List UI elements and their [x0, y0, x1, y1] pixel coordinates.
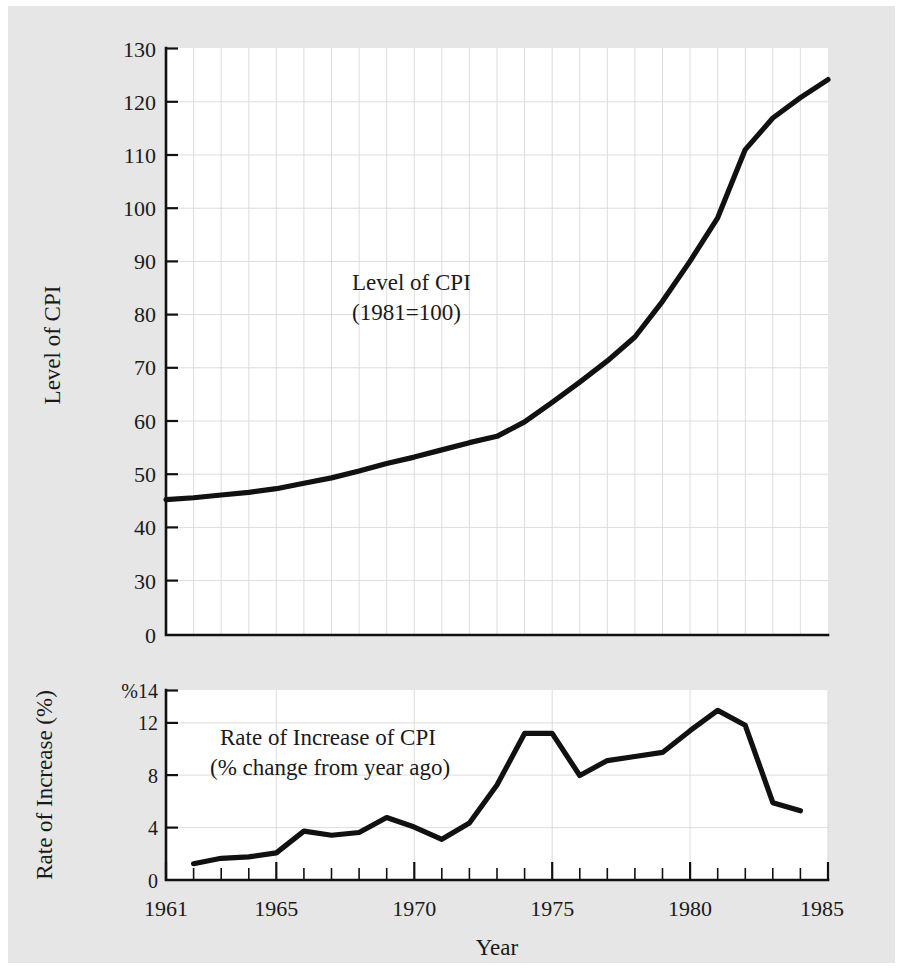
upper-yaxis-title: Level of CPI — [40, 286, 65, 405]
upper-ytick-label-80: 80 — [134, 302, 156, 327]
xtick-label-1965: 1965 — [254, 896, 298, 921]
lower-yaxis-title: Rate of Increase (%) — [32, 690, 57, 880]
xtick-label-1961: 1961 — [144, 896, 188, 921]
lower-annotation-line1: Rate of Increase of CPI — [220, 725, 436, 750]
lower-ytick-label-14: %14 — [121, 680, 158, 702]
xtick-label-1985: 1985 — [800, 896, 844, 921]
upper-ytick-label-100: 100 — [123, 196, 156, 221]
upper-ytick-label-0: 0 — [145, 623, 156, 648]
upper-ytick-label-110: 110 — [124, 143, 156, 168]
xaxis-title: Year — [476, 935, 519, 960]
lower-annotation-line2: (% change from year ago) — [210, 755, 450, 780]
upper-ytick-label-60: 60 — [134, 409, 156, 434]
upper-ytick-label-130: 130 — [123, 37, 156, 62]
figure-page: 130 120 110 100 90 80 70 60 50 40 30 0 L… — [0, 0, 903, 980]
lower-chart-group: %14 12 8 4 0 — [121, 680, 828, 892]
upper-ytick-label-90: 90 — [134, 249, 156, 274]
upper-ytick-label-70: 70 — [134, 355, 156, 380]
upper-annotation-line1: Level of CPI — [352, 270, 471, 295]
upper-chart-group: 130 120 110 100 90 80 70 60 50 40 30 0 — [123, 37, 828, 648]
upper-annotation-line2: (1981=100) — [352, 300, 461, 325]
cpi-figure: 130 120 110 100 90 80 70 60 50 40 30 0 L… — [0, 0, 903, 980]
lower-ytick-label-12: 12 — [138, 712, 158, 734]
upper-ytick-label-30: 30 — [134, 569, 156, 594]
lower-ytick-label-0: 0 — [148, 870, 158, 892]
chart-canvas: 130 120 110 100 90 80 70 60 50 40 30 0 L… — [0, 0, 903, 980]
xtick-label-1970: 1970 — [392, 896, 436, 921]
upper-ytick-label-120: 120 — [123, 90, 156, 115]
upper-ytick-label-40: 40 — [134, 515, 156, 540]
lower-ytick-label-4: 4 — [148, 817, 158, 839]
xtick-label-1980: 1980 — [668, 896, 712, 921]
lower-ytick-label-8: 8 — [148, 765, 158, 787]
xtick-label-1975: 1975 — [530, 896, 574, 921]
upper-ytick-label-50: 50 — [134, 462, 156, 487]
